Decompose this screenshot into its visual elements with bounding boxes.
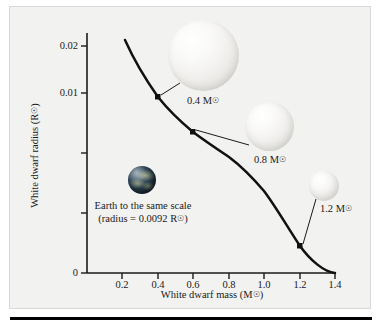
x-axis-title: White dwarf mass (M☉) xyxy=(87,289,337,300)
leader-line-0.8 xyxy=(196,130,249,145)
earth-caption-line1: Earth to the same scale xyxy=(72,200,214,211)
data-marker-0.4 xyxy=(155,94,161,100)
y-axis-title-text: White dwarf radius (R xyxy=(29,114,40,208)
data-marker-1.2 xyxy=(297,243,303,249)
solar-symbol-icon: ☉ xyxy=(279,155,286,164)
y-tick-label-0: 0 xyxy=(48,267,78,278)
data-marker-0.8 xyxy=(190,129,196,135)
bottom-rule-divider xyxy=(10,317,372,320)
solar-symbol-icon: ☉ xyxy=(212,96,219,105)
sphere-0.4-mass-text: 0.4 M xyxy=(187,95,212,106)
leader-line-0.4 xyxy=(161,83,180,95)
sphere-0.4-msun xyxy=(168,20,239,91)
solar-symbol-icon: ☉ xyxy=(30,107,39,114)
y-tick-label-0.01: 0.01 xyxy=(48,87,78,98)
sphere-1.2-msun xyxy=(309,171,339,201)
sphere-0.8-msun xyxy=(245,102,294,151)
sphere-1.2-mass-text: 1.2 M xyxy=(320,203,345,214)
earth-sphere-icon xyxy=(128,166,156,194)
solar-symbol-icon: ☉ xyxy=(253,290,260,299)
sphere-1.2-label: 1.2 M☉ xyxy=(296,203,376,214)
y-axis-title: White dwarf radius (R☉) xyxy=(29,76,40,236)
y-axis-ticks xyxy=(81,46,87,273)
x-axis-title-text: White dwarf mass (M xyxy=(161,289,253,300)
figure-container: 0.02 0.01 0 0.2 0.4 0.6 0.8 1.0 1.2 1.4 … xyxy=(0,0,382,334)
solar-symbol-icon: ☉ xyxy=(345,204,352,213)
earth-caption-close: ) xyxy=(184,213,188,224)
earth-caption-line2: (radius = 0.0092 R☉) xyxy=(72,213,214,224)
sphere-0.8-label: 0.8 M☉ xyxy=(230,154,310,165)
sphere-0.8-mass-text: 0.8 M xyxy=(254,154,279,165)
y-tick-label-0.02: 0.02 xyxy=(48,40,78,51)
sphere-0.4-label: 0.4 M☉ xyxy=(163,95,243,106)
y-axis-title-close: ) xyxy=(29,103,40,107)
x-axis-title-close: ) xyxy=(260,289,264,300)
earth-radius-text: (radius = 0.0092 R xyxy=(98,213,177,224)
